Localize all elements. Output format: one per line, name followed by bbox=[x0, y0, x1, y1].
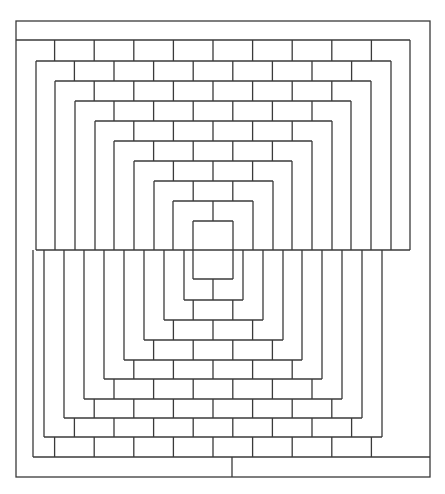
outer-frame bbox=[16, 21, 430, 477]
brick-maze-diagram bbox=[0, 0, 445, 494]
